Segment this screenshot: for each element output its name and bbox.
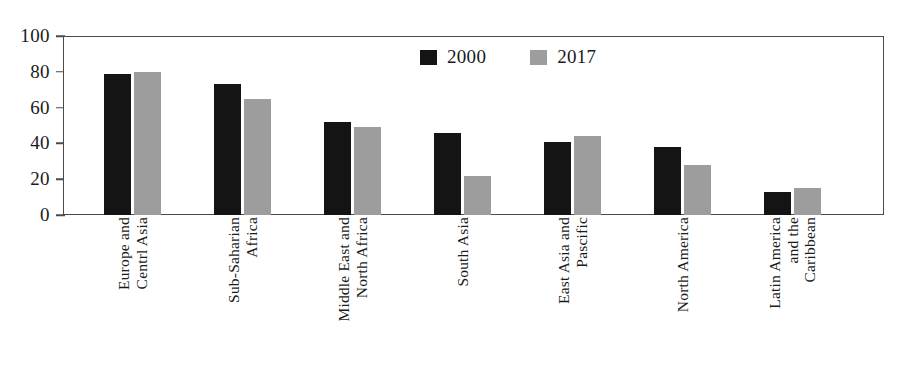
y-axis-tick-label: 0	[0, 204, 50, 226]
bar-2017-5	[574, 136, 601, 215]
bar-2017-4	[464, 176, 491, 215]
x-axis-label-line: Caribbean	[802, 217, 818, 283]
bar-2017-2	[244, 99, 271, 215]
bar-group	[654, 36, 714, 215]
legend-item-2017[interactable]: 2017	[530, 46, 596, 68]
legend-label: 2000	[447, 46, 486, 68]
legend-item-2000[interactable]: 2000	[420, 46, 486, 68]
y-axis-tick-label: 60	[0, 97, 50, 119]
bar-2000-6	[654, 147, 681, 215]
legend-swatch-icon	[530, 50, 547, 65]
x-axis-label-line: South Asia	[455, 217, 471, 287]
x-axis-label-line: Sub-Saharian	[226, 217, 242, 303]
bar-2017-1	[134, 72, 161, 215]
x-axis-label-line: Centrl Asia	[134, 217, 150, 289]
legend-label: 2017	[557, 46, 596, 68]
y-axis-tick-label: 100	[0, 25, 50, 47]
x-axis-label-line: Africa	[244, 217, 260, 258]
x-axis-labels: Europe andCentrl AsiaSub-SaharianAfricaM…	[63, 217, 884, 379]
x-axis-label-line: North America	[675, 217, 691, 312]
y-axis-tick-label: 80	[0, 61, 50, 83]
bar-2017-3	[354, 127, 381, 215]
x-axis-label-line: Latin America	[767, 217, 783, 309]
y-axis-tick-label: 40	[0, 132, 50, 154]
legend-swatch-icon	[420, 50, 437, 65]
bar-2000-4	[434, 133, 461, 215]
bar-group	[104, 36, 164, 215]
x-axis-label-line: Middle East and	[336, 217, 352, 322]
y-axis-tick-label: 20	[0, 168, 50, 190]
bar-2000-1	[104, 74, 131, 215]
bar-chart: 100806040200 20002017 Europe andCentrl A…	[0, 0, 914, 379]
x-axis-label-line: Pascific	[574, 217, 590, 268]
x-axis-label-line: and the	[785, 217, 801, 264]
x-axis-label-line: North Africa	[354, 217, 370, 298]
bar-2000-7	[764, 192, 791, 215]
bar-2000-5	[544, 142, 571, 215]
x-axis-label-line: East Asia and	[556, 217, 572, 304]
bar-2000-3	[324, 122, 351, 215]
bar-2000-2	[214, 84, 241, 215]
bar-2017-6	[684, 165, 711, 215]
bar-group	[324, 36, 384, 215]
bar-2017-7	[794, 188, 821, 215]
legend: 20002017	[420, 46, 596, 68]
x-axis-label-line: Europe and	[116, 217, 132, 290]
bar-group	[214, 36, 274, 215]
bar-group	[764, 36, 824, 215]
